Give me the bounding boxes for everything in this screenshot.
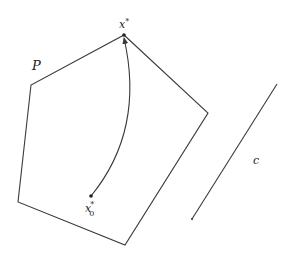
cost-vector-endpoint xyxy=(191,218,193,220)
start-label: x*0 xyxy=(85,200,94,218)
optimum-label-sup: * xyxy=(125,17,129,26)
cost-vector-label: c xyxy=(253,154,259,167)
optimization-path xyxy=(91,38,130,196)
diagram-canvas: P x* x*0 c xyxy=(0,0,291,261)
optimum-label: x* xyxy=(119,17,129,31)
start-label-sub: 0 xyxy=(89,209,94,218)
start-point xyxy=(89,194,93,198)
start-label-sup: * xyxy=(90,200,94,209)
cost-vector-c xyxy=(192,84,277,219)
polytope-p xyxy=(18,35,208,245)
optimum-point xyxy=(122,33,126,37)
polytope-label: P xyxy=(31,58,41,73)
